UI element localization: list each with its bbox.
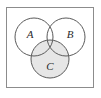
set-a-label: A xyxy=(26,28,34,40)
set-c-label: C xyxy=(46,60,54,72)
venn-diagram-figure: A B C xyxy=(0,0,101,98)
venn-diagram-canvas: A B C xyxy=(0,0,101,98)
set-b-label: B xyxy=(67,28,74,40)
